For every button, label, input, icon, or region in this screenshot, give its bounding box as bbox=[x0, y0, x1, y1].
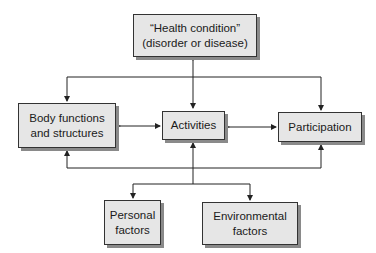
node-personal-factors: Personal factors bbox=[104, 200, 161, 245]
node-activities: Activities bbox=[162, 111, 225, 140]
node-label: “Health condition” bbox=[150, 21, 240, 36]
node-participation: Participation bbox=[278, 112, 362, 142]
node-label: Personal bbox=[110, 208, 155, 223]
node-label: (disorder or disease) bbox=[142, 36, 247, 51]
node-label: and structures bbox=[31, 126, 104, 141]
node-body-functions: Body functions and structures bbox=[18, 103, 116, 148]
node-label: Participation bbox=[288, 120, 351, 135]
node-label: Environmental bbox=[213, 209, 287, 224]
node-label: Body functions bbox=[29, 111, 104, 126]
node-label: factors bbox=[115, 223, 150, 238]
node-label: factors bbox=[233, 224, 268, 239]
node-health-condition: “Health condition” (disorder or disease) bbox=[133, 14, 257, 57]
node-environmental-factors: Environmental factors bbox=[202, 202, 298, 245]
node-label: Activities bbox=[171, 118, 216, 133]
